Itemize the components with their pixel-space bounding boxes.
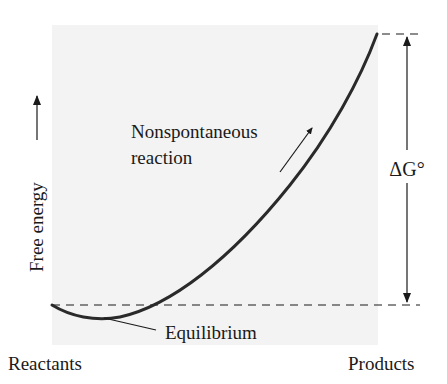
products-label: Products — [348, 353, 415, 374]
delta-g-label: ΔG° — [389, 158, 424, 180]
y-axis-label: Free energy — [26, 182, 47, 272]
equilibrium-label: Equilibrium — [165, 322, 257, 343]
reactants-label: Reactants — [8, 353, 82, 374]
free-energy-diagram: ΔG° Free energy Nonspontaneous reaction … — [0, 0, 447, 384]
plot-panel — [52, 25, 378, 345]
process-label-line2: reaction — [131, 147, 193, 168]
process-label-line1: Nonspontaneous — [131, 121, 258, 142]
